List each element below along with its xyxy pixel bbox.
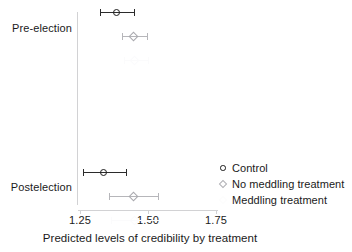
data-point-marker-no-meddling-treatment[interactable] <box>129 191 139 201</box>
legend: Control No meddling treatment Meddling t… <box>214 160 350 208</box>
legend-label-no-meddling-treatment: No meddling treatment <box>232 178 344 190</box>
error-bar-cap-low <box>122 33 123 40</box>
legend-item-control[interactable]: Control <box>214 160 350 176</box>
data-point-marker-control[interactable] <box>100 169 107 176</box>
y-axis-label-postelection: Postelection <box>4 181 72 193</box>
error-bar-cap-low <box>83 169 84 176</box>
error-bar-cap-high <box>126 169 127 176</box>
legend-label-control: Control <box>232 162 268 174</box>
y-axis-line <box>77 12 78 205</box>
error-bar-cap-high <box>158 193 159 200</box>
legend-item-no-meddling-treatment[interactable]: No meddling treatment <box>214 176 350 192</box>
x-axis-ticklabel-3: 1.75 <box>196 214 236 226</box>
error-bar-cap-high <box>148 57 149 64</box>
error-bar-cap-low <box>111 217 112 224</box>
error-bar-cap-high <box>147 33 148 40</box>
error-bar-cap-low <box>124 57 125 64</box>
y-axis-label-pre-election: Pre-election <box>4 22 72 34</box>
x-axis-title: Predicted levels of credibility by treat… <box>0 232 300 244</box>
data-point-marker-no-meddling-treatment[interactable] <box>129 31 139 41</box>
dot-plot-figure: Pre-election Postelection 1.25 1.50 1.75… <box>0 0 352 252</box>
data-point-marker-meddling-treatment[interactable] <box>130 55 140 65</box>
error-bar-cap-high <box>159 217 160 224</box>
legend-item-meddling-treatment[interactable]: Meddling treatment <box>214 192 350 208</box>
error-bar-cap-high <box>134 9 135 16</box>
x-axis-ticklabel-1: 1.25 <box>60 214 100 226</box>
data-point-marker-control[interactable] <box>113 9 120 16</box>
diamond-marker-icon <box>214 181 232 187</box>
error-bar-cap-low <box>109 193 110 200</box>
circle-marker-icon <box>214 165 232 171</box>
error-bar-cap-low <box>100 9 101 16</box>
diamond-marker-faint-icon <box>214 197 232 203</box>
legend-label-meddling-treatment: Meddling treatment <box>232 194 327 206</box>
